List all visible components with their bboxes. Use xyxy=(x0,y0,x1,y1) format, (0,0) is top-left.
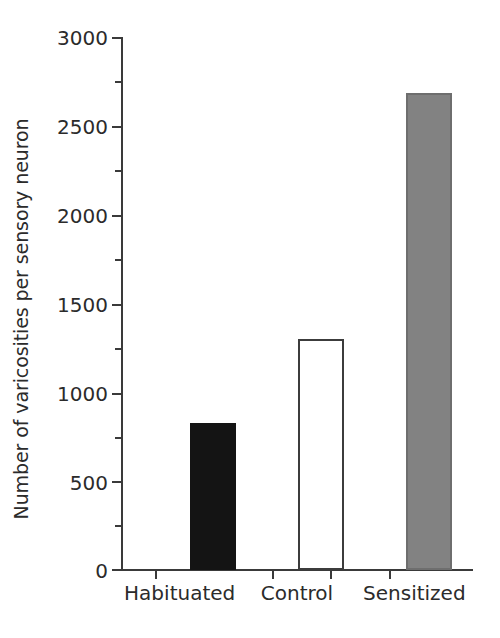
y-tick-label-3000: 3000 xyxy=(4,28,108,48)
y-tick-label-1000: 1000 xyxy=(4,384,108,404)
y-tick-label-0: 0 xyxy=(4,561,108,581)
y-axis-spine xyxy=(121,37,123,571)
y-axis-tick-label-group: 3000 2500 2000 1500 1000 500 0 xyxy=(0,0,108,638)
x-category-label-habituated: Habituated xyxy=(121,578,238,612)
y-tick-label-2500: 2500 xyxy=(4,117,108,137)
x-category-label-control: Control xyxy=(238,578,355,612)
bar-chart-figure: Number of varicosities per sensory neuro… xyxy=(0,0,500,638)
y-tick-major-1500 xyxy=(112,304,121,306)
y-tick-major-0 xyxy=(112,569,121,571)
y-tick-major-2000 xyxy=(112,215,121,217)
y-tick-major-3000 xyxy=(112,37,121,39)
bar-sensitized xyxy=(406,93,452,570)
bar-control xyxy=(298,339,344,570)
x-category-label-sensitized: Sensitized xyxy=(356,578,473,612)
x-axis-category-label-group: Habituated Control Sensitized xyxy=(121,578,473,612)
y-tick-label-2000: 2000 xyxy=(4,206,108,226)
y-tick-major-1000 xyxy=(112,393,121,395)
y-tick-label-1500: 1500 xyxy=(4,295,108,315)
y-tick-major-2500 xyxy=(112,126,121,128)
bar-habituated xyxy=(190,423,236,570)
y-tick-label-500: 500 xyxy=(4,473,108,493)
y-tick-major-500 xyxy=(112,481,121,483)
